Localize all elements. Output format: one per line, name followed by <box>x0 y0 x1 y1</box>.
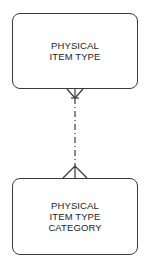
crows-foot-right-top <box>75 89 83 98</box>
crows-foot-left-top <box>67 89 75 98</box>
crows-foot-left-bottom <box>63 166 75 178</box>
entity-physical-item-type-category: PHYSICAL ITEM TYPE CATEGORY <box>12 178 138 255</box>
entity-label: PHYSICAL ITEM TYPE CATEGORY <box>48 200 101 233</box>
crows-foot-right-bottom <box>75 166 87 178</box>
